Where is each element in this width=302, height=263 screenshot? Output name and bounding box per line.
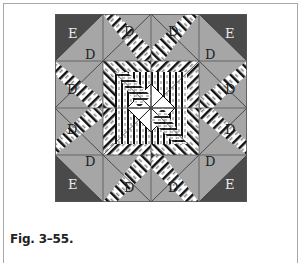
label-e-bottom-right: E <box>225 177 235 192</box>
quilt-diagram: E D D D E D D D D D D E D D D E <box>55 14 247 202</box>
label-d-left-2: D <box>67 122 77 137</box>
label-d-top-right-inner: D <box>205 47 215 62</box>
figure-caption: Fig. 3–55. <box>10 232 73 246</box>
label-d-top-left-inner: D <box>85 47 95 62</box>
label-d-bottom-left-inner: D <box>85 154 95 169</box>
label-d-right-1: D <box>225 82 235 97</box>
label-e-bottom-left: E <box>68 177 78 192</box>
label-d-top-2: D <box>168 24 178 39</box>
label-d-left-1: D <box>67 82 77 97</box>
label-e-top-left: E <box>68 26 78 41</box>
label-d-bottom-1: D <box>124 180 134 195</box>
label-d-bottom-2: D <box>168 180 178 195</box>
label-d-top-1: D <box>124 24 134 39</box>
label-d-right-2: D <box>225 122 235 137</box>
label-e-top-right: E <box>225 26 235 41</box>
label-d-bottom-right-inner: D <box>205 154 215 169</box>
quilt-svg: E D D D E D D D D D D E D D D E <box>55 14 247 202</box>
